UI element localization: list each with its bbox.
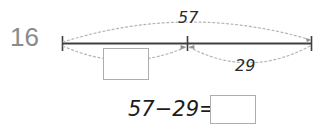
arrowhead-arc-total: [306, 38, 311, 42]
unknown-part-answer-box[interactable]: [103, 48, 149, 80]
arc-label-total: 57: [178, 8, 198, 27]
math-worksheet-problem: 16 57 29 57−29=: [0, 0, 334, 131]
equation-answer-box[interactable]: [210, 95, 256, 124]
arrowhead-arc-unknown-part: [181, 45, 187, 49]
arrowhead-arc-known-part: [189, 45, 194, 49]
equation-text: 57−29=: [128, 96, 217, 123]
arc-label-known-part: 29: [235, 56, 255, 75]
